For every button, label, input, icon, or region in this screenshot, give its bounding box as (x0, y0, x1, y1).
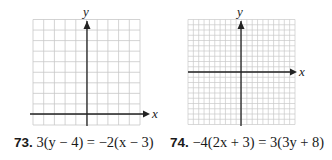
x-axis-arrow-icon (290, 69, 297, 76)
graph-73: x y (0, 0, 166, 128)
coordinate-grid-73: x y (0, 0, 166, 128)
graph-74: x y (166, 0, 332, 128)
problem-number: 73. (14, 135, 33, 150)
y-axis-arrow-icon (84, 21, 91, 29)
problem-number: 74. (170, 135, 189, 150)
y-axis-label: y (235, 4, 243, 19)
x-axis-arrow-icon (143, 111, 150, 118)
problem-equation: −4(2x + 3) = 3(3y + 8) (192, 134, 324, 150)
problem-74-caption: 74. −4(2x + 3) = 3(3y + 8) (170, 134, 324, 151)
x-axis-label: x (151, 106, 158, 121)
problem-equation: 3(y − 4) = −2(x − 3) (36, 134, 153, 150)
y-axis-label: y (81, 4, 89, 19)
coordinate-grid-74: x y (166, 0, 332, 128)
x-axis-label: x (298, 64, 305, 79)
problem-73-caption: 73. 3(y − 4) = −2(x − 3) (14, 134, 154, 151)
